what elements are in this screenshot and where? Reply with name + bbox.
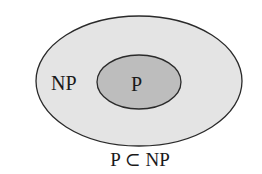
venn-diagram: NP P P ⊂ NP	[0, 0, 262, 174]
p-label: P	[131, 73, 142, 95]
caption: P ⊂ NP	[110, 149, 170, 170]
np-label: NP	[51, 72, 77, 94]
